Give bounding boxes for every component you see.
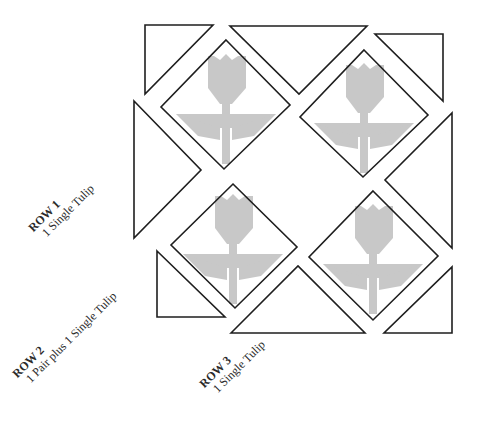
tulip-block-top-right: [300, 50, 428, 177]
tulip-block-bottom-right: [309, 191, 438, 320]
triangle-top-right: [375, 34, 443, 101]
triangle-top-left: [145, 25, 213, 94]
tulip-block-bottom-left: [171, 184, 297, 308]
setting-triangles: [134, 25, 452, 333]
